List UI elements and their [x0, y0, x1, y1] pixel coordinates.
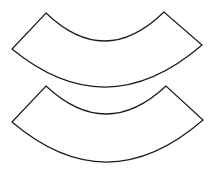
top-annular-sector [12, 12, 202, 87]
diagram-canvas [0, 0, 214, 169]
bottom-annular-sector [12, 86, 203, 162]
